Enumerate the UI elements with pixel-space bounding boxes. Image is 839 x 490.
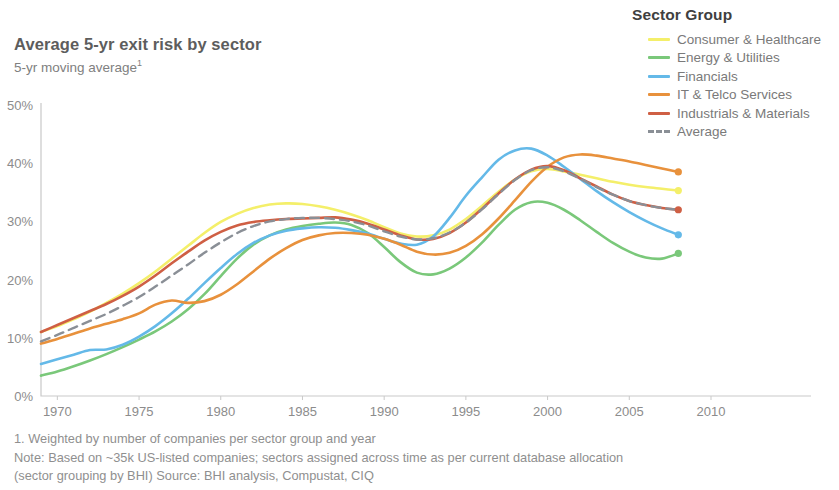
y-axis-tick-label: 30% (7, 214, 33, 229)
footnote-line: 1. Weighted by number of companies per s… (14, 430, 826, 449)
y-axis-tick-label: 40% (7, 156, 33, 171)
series-line (41, 166, 678, 332)
x-axis-tick-label: 1975 (125, 404, 154, 419)
series-line (41, 169, 678, 332)
line-chart-plot: 0%10%20%30%40%50% 1970197519801985199019… (0, 0, 839, 430)
x-axis-tick-label: 1970 (43, 404, 72, 419)
y-axis-tick-label: 50% (7, 98, 33, 113)
series-endpoint-marker (675, 206, 682, 213)
y-axis-tick-label: 0% (14, 389, 33, 404)
x-axis-tick-label: 1980 (206, 404, 235, 419)
x-axis-tick-label: 1995 (451, 404, 480, 419)
x-axis-tick-label: 1985 (288, 404, 317, 419)
series-endpoint-marker (675, 250, 682, 257)
x-axis-tick-labels: 197019751980198519901995200020052010 (43, 396, 726, 419)
endpoint-markers (675, 168, 682, 257)
footnotes: 1. Weighted by number of companies per s… (14, 430, 826, 486)
y-axis-tick-labels: 0%10%20%30%40%50% (7, 98, 33, 404)
footnote-line: Note: Based on ~35k US-listed companies;… (14, 449, 826, 468)
series-endpoint-marker (675, 231, 682, 238)
x-axis-tick-label: 2010 (697, 404, 726, 419)
series-line (41, 154, 678, 343)
x-axis-tick-label: 2000 (533, 404, 562, 419)
series-lines (41, 148, 678, 375)
chart-page: Average 5-yr exit risk by sector 5-yr mo… (0, 0, 839, 490)
x-axis-tick-label: 1990 (370, 404, 399, 419)
x-axis-tick-label: 2005 (615, 404, 644, 419)
series-endpoint-marker (675, 187, 682, 194)
axis-lines (41, 103, 811, 396)
footnote-line: (sector grouping by BHI) Source: BHI ana… (14, 467, 826, 486)
y-axis-tick-label: 10% (7, 331, 33, 346)
series-endpoint-marker (675, 168, 682, 175)
y-axis-tick-label: 20% (7, 273, 33, 288)
